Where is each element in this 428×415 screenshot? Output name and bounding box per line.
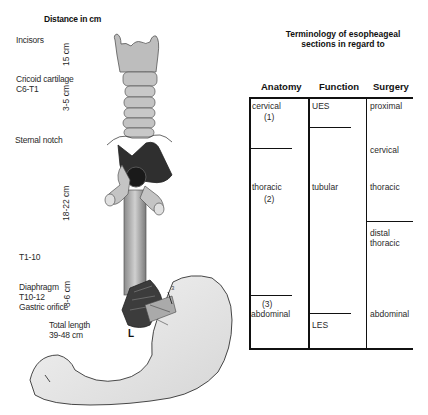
function-ues: UES <box>312 101 329 111</box>
label-t1-10: T1-10 <box>19 252 40 262</box>
esophagus-tube <box>124 190 146 295</box>
header-surgery: Surgery <box>373 81 409 92</box>
function-tubular: tubular <box>312 182 338 192</box>
distance-title: Distance in cm <box>44 14 101 24</box>
surgery-distal-thoracic: thoracic <box>370 238 400 248</box>
distance-18-22cm: 18-22 cm <box>61 186 71 221</box>
distance-3-5cm: 3-5 cm <box>61 85 71 111</box>
l-marker: L <box>128 328 134 339</box>
larynx-icon <box>114 34 158 137</box>
anatomy-cervical-number: (1) <box>264 112 274 122</box>
label-diaphragm-3: Gastric orifice <box>19 302 68 312</box>
anatomy-abdominal-number: (3) <box>262 299 272 309</box>
distance-15cm: 15 cm <box>61 43 71 66</box>
function-les: LES <box>312 320 328 330</box>
table-title-line2: sections in regard to <box>268 39 418 49</box>
label-total-1: Total length <box>49 320 90 330</box>
anatomy-thoracic-number: (2) <box>264 194 274 204</box>
label-sternal-notch: Sternal notch <box>15 135 63 145</box>
table-title: Terminology of esopheageal sections in r… <box>268 29 418 49</box>
label-incisors: Incisors <box>16 35 44 45</box>
anatomy-abdominal: abdominal <box>251 309 290 319</box>
label-diaphragm-2: T10-12 <box>19 292 45 302</box>
label-cricoid-1: Cricoid cartilage <box>16 74 74 84</box>
label-total-2: 39-48 cm <box>49 330 83 340</box>
surgery-distal: distal <box>370 228 390 238</box>
surgery-thoracic: thoracic <box>370 182 400 192</box>
anatomy-cervical: cervical <box>252 101 281 111</box>
header-function: Function <box>319 81 359 92</box>
surgery-cervical: cervical <box>370 145 399 155</box>
surgery-abdominal: abdominal <box>370 309 409 319</box>
anatomy-thoracic: thoracic <box>252 182 282 192</box>
header-anatomy: Anatomy <box>261 81 302 92</box>
label-diaphragm-1: Diaphragm <box>19 282 59 292</box>
distance-3-6cm: 3-6 cm <box>62 281 72 307</box>
table-title-line1: Terminology of esopheageal <box>268 29 418 39</box>
label-cricoid-2: C6-T1 <box>16 84 39 94</box>
surgery-proximal: proximal <box>370 101 402 111</box>
